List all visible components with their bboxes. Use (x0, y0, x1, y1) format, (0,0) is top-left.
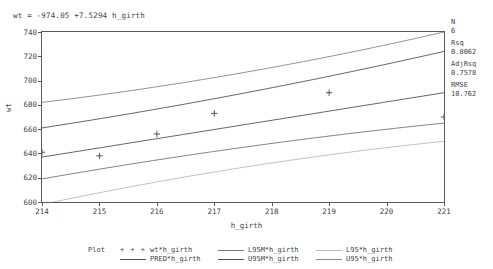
legend-line-key (316, 246, 342, 254)
legend-line-key (218, 246, 244, 254)
y-tick-label: 700 (11, 76, 37, 85)
chart-canvas: wt = -974.05 +7.5294 h_girth wt 60062064… (0, 0, 493, 269)
statistic-label: AdjRsq (451, 60, 491, 69)
data-point-marker (441, 114, 444, 120)
y-tick-label: 740 (11, 28, 37, 37)
legend-line-swatch (316, 250, 342, 251)
y-tick-label: 680 (11, 100, 37, 109)
legend-item-label: U95M*h_girth (248, 255, 299, 263)
x-tick-mark (214, 202, 215, 206)
y-tick-label: 600 (11, 198, 37, 207)
x-tick-label: 215 (79, 207, 119, 216)
statistic-value: 10.762 (451, 90, 491, 99)
x-tick-mark (329, 202, 330, 206)
legend-item-label: wt*h_girth (150, 246, 192, 254)
statistic-label: Rsq (451, 39, 491, 48)
x-tick-mark (444, 202, 445, 206)
x-tick-label: 214 (22, 207, 62, 216)
x-tick-mark (387, 202, 388, 206)
legend-line-swatch (218, 259, 244, 260)
legend-line-swatch (218, 250, 244, 251)
x-tick-mark (42, 202, 43, 206)
legend-line-key (120, 255, 146, 263)
plot-lines (42, 32, 444, 202)
regression-equation-label: wt = -974.05 +7.5294 h_girth (13, 11, 145, 20)
legend-line-key (218, 255, 244, 263)
y-tick-label: 720 (11, 52, 37, 61)
statistic-rmse: RMSE10.762 (451, 81, 491, 98)
data-point-marker (42, 149, 45, 155)
legend-line-swatch (316, 259, 342, 260)
y-tick-label: 620 (11, 173, 37, 182)
statistic-n: N6 (451, 18, 491, 35)
legend-title: Plot (88, 246, 105, 254)
y-tick-label: 660 (11, 125, 37, 134)
series-line (42, 32, 444, 102)
series-line (42, 123, 444, 179)
x-tick-label: 220 (367, 207, 407, 216)
legend-marker-key: + + + (120, 246, 146, 254)
legend-item-label: L95M*h_girth (248, 246, 299, 254)
x-axis-title: h_girth (0, 221, 493, 230)
x-tick-label: 221 (424, 207, 464, 216)
legend-line-key (316, 255, 342, 263)
statistics-panel: N6Rsq0.8062AdjRsq0.7578RMSE10.762 (451, 18, 491, 102)
data-point-marker (96, 153, 102, 159)
data-point-marker (326, 90, 332, 96)
legend-item-label: PRED*h_girth (150, 255, 201, 263)
x-tick-mark (99, 202, 100, 206)
x-tick-label: 216 (137, 207, 177, 216)
data-point-marker (211, 110, 217, 116)
statistic-value: 6 (451, 27, 491, 36)
legend-item-label: L95*h_girth (346, 246, 392, 254)
y-tick-label: 640 (11, 149, 37, 158)
plot-frame (41, 31, 445, 203)
x-tick-label: 219 (309, 207, 349, 216)
statistic-adjrsq: AdjRsq0.7578 (451, 60, 491, 77)
legend: Plot + + +wt*h_girthPRED*h_girthL95M*h_g… (0, 244, 493, 266)
statistic-label: N (451, 18, 491, 27)
statistic-label: RMSE (451, 81, 491, 90)
series-line (42, 51, 444, 128)
statistic-value: 0.8062 (451, 48, 491, 57)
x-tick-mark (272, 202, 273, 206)
x-tick-label: 217 (194, 207, 234, 216)
legend-item-label: U95*h_girth (346, 255, 392, 263)
statistic-rsq: Rsq0.8062 (451, 39, 491, 56)
series-line (42, 141, 444, 202)
data-point-marker (154, 131, 160, 137)
x-tick-mark (157, 202, 158, 206)
x-tick-label: 218 (252, 207, 292, 216)
legend-line-swatch (120, 259, 146, 260)
statistic-value: 0.7578 (451, 69, 491, 78)
